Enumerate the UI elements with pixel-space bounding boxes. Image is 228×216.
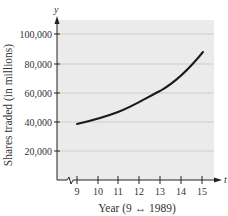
svg-text:60,000: 60,000: [25, 88, 53, 99]
x-axis-arrow-icon: [214, 178, 222, 183]
y-axis-label: Shares traded (in millions): [2, 44, 15, 166]
svg-text:9: 9: [75, 186, 80, 197]
svg-text:12: 12: [134, 186, 144, 197]
svg-text:10: 10: [93, 186, 103, 197]
svg-text:20,000: 20,000: [25, 146, 53, 157]
svg-text:80,000: 80,000: [25, 59, 53, 70]
y-axis-var: y: [53, 4, 59, 15]
x-axis-label: Year (9 ↔ 1989): [98, 202, 176, 215]
svg-text:100,000: 100,000: [20, 29, 53, 40]
svg-text:15: 15: [197, 186, 207, 197]
x-tick-labels: 9 10 11 12 13 14 15: [75, 186, 208, 197]
chart: y 100,000 80,000 60,000 40,000 20,000 t …: [0, 0, 228, 216]
svg-text:11: 11: [113, 186, 123, 197]
svg-text:40,000: 40,000: [25, 117, 53, 128]
y-tick-labels: 100,000 80,000 60,000 40,000 20,000: [20, 29, 53, 157]
plot-area: [57, 20, 214, 180]
svg-text:14: 14: [176, 186, 186, 197]
svg-text:13: 13: [155, 186, 165, 197]
x-axis-var: t: [224, 174, 227, 185]
